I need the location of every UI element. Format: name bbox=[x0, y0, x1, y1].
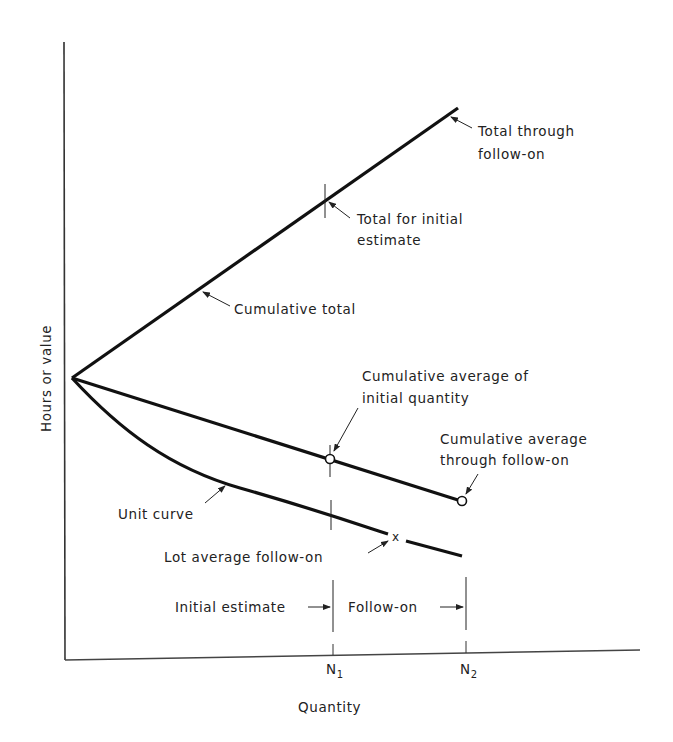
unit-curve-arrow bbox=[205, 486, 225, 503]
lot-average-label: Lot average follow-on bbox=[164, 549, 323, 565]
initial-estimate-label: Initial estimate bbox=[175, 599, 286, 615]
x-axis-title: Quantity bbox=[298, 699, 361, 715]
unit-curve-label: Unit curve bbox=[118, 506, 194, 522]
total-through-arrow bbox=[451, 117, 472, 128]
n1-label: N1 bbox=[326, 661, 344, 680]
total-through-label-2: follow-on bbox=[478, 146, 545, 162]
lot-average-arrow bbox=[368, 541, 388, 553]
cumulative-total-arrow bbox=[203, 292, 230, 306]
follow-on-label: Follow-on bbox=[348, 599, 418, 615]
total-initial-label-2: estimate bbox=[357, 232, 421, 248]
cum-avg-follow-marker bbox=[458, 497, 467, 506]
cumulative-total-label: Cumulative total bbox=[234, 301, 356, 317]
n2-label: N2 bbox=[460, 661, 478, 680]
cum-avg-follow-arrow bbox=[466, 474, 478, 494]
unit-curve-follow bbox=[406, 541, 462, 556]
x-axis bbox=[65, 650, 640, 660]
total-initial-arrow bbox=[329, 202, 350, 218]
cum-avg-initial-label-2: initial quantity bbox=[362, 390, 469, 406]
total-initial-label-1: Total for initial bbox=[356, 211, 463, 227]
cum-avg-initial-marker bbox=[326, 455, 335, 464]
lot-average-marker: x bbox=[392, 530, 400, 544]
total-through-label-1: Total through bbox=[477, 123, 575, 139]
cum-avg-follow-label-1: Cumulative average bbox=[440, 431, 587, 447]
cum-avg-initial-label-1: Cumulative average of bbox=[362, 368, 529, 384]
cum-avg-initial-arrow bbox=[334, 408, 358, 451]
y-axis-title: Hours or value bbox=[38, 325, 54, 432]
cum-avg-follow-label-2: through follow-on bbox=[440, 452, 569, 468]
y-axis bbox=[64, 42, 65, 660]
learning-curve-diagram: x Total through follow-on Total for init… bbox=[0, 0, 673, 742]
